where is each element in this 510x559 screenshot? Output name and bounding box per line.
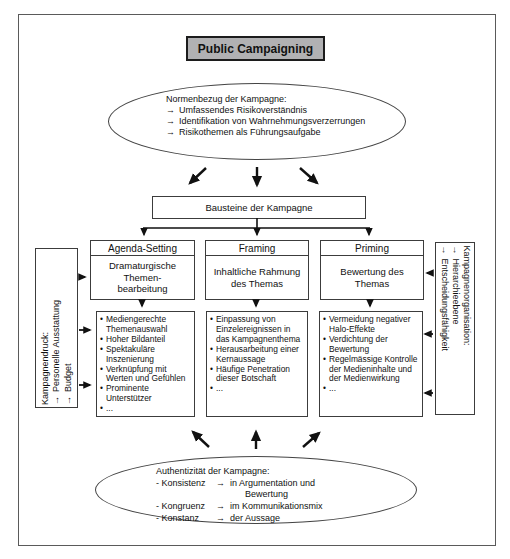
detail-box-framing: • Einpassung von Einzelereignissen in da… [206,311,308,417]
bullet-label: Spektakuläre Inszenierung [106,345,192,365]
authentizitaet-term: - Konstanz [156,513,216,524]
authentizitaet-rows: - Konsistenz → in Argumentation und Bewe… [156,478,381,524]
right-arrow-icon: → [216,478,230,500]
authentizitaet-term: - Kongruenz [156,501,216,512]
bullet-label: Regelmässige Kontrolle der Medieninhalte… [329,355,420,385]
bullet-item: • ... [323,384,420,394]
column-subtitle-label: Dramaturgische Themen- bearbeitung [109,260,176,296]
bullet-item: • ... [100,404,192,414]
bullet-item: • Spektakuläre Inszenierung [100,345,192,365]
column-header-priming: Priming [320,240,424,256]
column-subtitle-label: Inhaltliche Rahmung des Themas [214,266,301,290]
kampagnenorganisation-item-label: Hierarchieebene [449,258,460,412]
bullet-item: • Vermeidung negativer Halo-Effekte [323,315,420,335]
authentizitaet-term: - Konsistenz [156,478,216,500]
authentizitaet-heading: Authentizität der Kampagne: [156,466,381,477]
authentizitaet-ellipse: Authentizität der Kampagne: - Konsistenz… [95,456,417,524]
bullet-item: • Einpassung von Einzelereignissen in da… [210,315,305,345]
authentizitaet-row: - Konsistenz → in Argumentation und Bewe… [156,478,381,500]
kampagnendruck-item-label: Budget [62,251,73,392]
kampagnenorganisation-item: → Hierarchieebene [449,245,460,412]
kampagnenorganisation-item-label: Entscheidungsfähigkeit [438,258,449,412]
right-arrow-icon: → [166,105,179,116]
norm-item: → Risikothemen als Führungsaufgabe [166,127,398,138]
title-box: Public Campaigning [186,36,325,61]
kampagnenorganisation-box: Kampagnenorganisation: → Hierarchieebene… [435,242,475,415]
bullet-label: Häufige Penetration dieser Botschaft [216,365,305,385]
bullet-item: • Regelmässige Kontrolle der Medieninhal… [323,355,420,385]
bullet-label: Verknüpfung mit Werten und Gefühlen [106,365,192,385]
column-subtitle-priming: Bewertung des Themas [320,255,424,300]
column-header-label: Framing [239,243,276,254]
authentizitaet-desc: der Aussage [230,513,381,524]
bullet-item: • Häufige Penetration dieser Botschaft [210,365,305,385]
norm-ellipse: Normenbezug der Kampagne: → Umfassendes … [108,83,406,160]
norm-heading: Normenbezug der Kampagne: [166,94,398,105]
column-header-label: Agenda-Setting [108,243,177,254]
kampagnenorganisation-heading: Kampagnenorganisation: [461,245,472,412]
kampagnendruck-item: → Personelle Ausstattung [51,251,62,405]
bullet-item: • ... [210,384,305,394]
kampagnendruck-item-label: Personelle Ausstattung [51,251,62,392]
right-arrow-icon: → [62,392,73,405]
bullet-item: • Verknüpfung mit Werten und Gefühlen [100,365,192,385]
norm-item-label: Umfassendes Risikoverständnis [179,105,398,116]
bullet-item: • Verdichtung der Bewertung [323,335,420,355]
bullet-label: Vermeidung negativer Halo-Effekte [329,315,420,335]
kampagnenorganisation-item: → Entscheidungsfähigkeit [438,245,449,412]
bullet-item: • Herausarbeitung einer Kernaussage [210,345,305,365]
kampagnendruck-items: → Personelle Ausstattung → Budget [51,251,74,405]
kampagnendruck-heading: Kampagnendruck: [40,251,51,405]
norm-item-label: Risikothemen als Führungsaufgabe [179,127,398,138]
bullet-label: Mediengerechte Themenauswahl [106,315,192,335]
bausteine-label: Bausteine der Kampagne [205,202,312,213]
kampagnendruck-box: Kampagnendruck: → Personelle Ausstattung… [35,248,78,408]
bullet-label: ... [216,384,305,394]
right-arrow-icon: → [51,392,62,405]
bullet-item: • Prominente Unterstützer [100,384,192,404]
right-arrow-icon: → [216,513,230,524]
bullet-label: Verdichtung der Bewertung [329,335,420,355]
bausteine-box: Bausteine der Kampagne [152,196,366,219]
bullet-label: Einpassung von Einzelereignissen in das … [216,315,305,345]
column-subtitle-label: Bewertung des Themas [340,266,403,290]
norm-item-list: → Umfassendes Risikoverständnis → Identi… [166,105,398,138]
kampagnenorganisation-items: → Hierarchieebene → Entscheidungsfähigke… [438,245,461,412]
bullet-label: Herausarbeitung einer Kernaussage [216,345,305,365]
bullet-label: Prominente Unterstützer [106,384,192,404]
right-arrow-icon: → [166,116,179,127]
column-subtitle-agenda-setting: Dramaturgische Themen- bearbeitung [90,255,195,300]
kampagnendruck-item: → Budget [62,251,73,405]
authentizitaet-desc: in Argumentation und Bewertung [230,478,381,500]
column-subtitle-framing: Inhaltliche Rahmung des Themas [205,255,309,300]
bullet-item: • Mediengerechte Themenauswahl [100,315,192,335]
authentizitaet-desc: im Kommunikationsmix [230,501,381,512]
norm-item: → Umfassendes Risikoverständnis [166,105,398,116]
right-arrow-icon: → [449,245,460,258]
column-header-label: Priming [355,243,389,254]
authentizitaet-row: - Konstanz → der Aussage [156,513,381,524]
right-arrow-icon: → [166,127,179,138]
right-arrow-icon: → [438,245,449,258]
authentizitaet-row: - Kongruenz → im Kommunikationsmix [156,501,381,512]
column-header-framing: Framing [205,240,309,256]
diagram-canvas: Public Campaigning Normenbezug der Kampa… [0,0,510,559]
column-header-agenda-setting: Agenda-Setting [90,240,195,256]
norm-item: → Identifikation von Wahrnehmungsverzerr… [166,116,398,127]
bullet-label: ... [329,384,420,394]
page-title: Public Campaigning [198,42,313,56]
norm-item-label: Identifikation von Wahrnehmungsverzerrun… [179,116,398,127]
detail-box-priming: • Vermeidung negativer Halo-Effekte • Ve… [319,311,423,417]
right-arrow-icon: → [216,501,230,512]
detail-box-agenda-setting: • Mediengerechte Themenauswahl • Hoher B… [96,311,195,417]
bullet-label: ... [106,404,192,414]
